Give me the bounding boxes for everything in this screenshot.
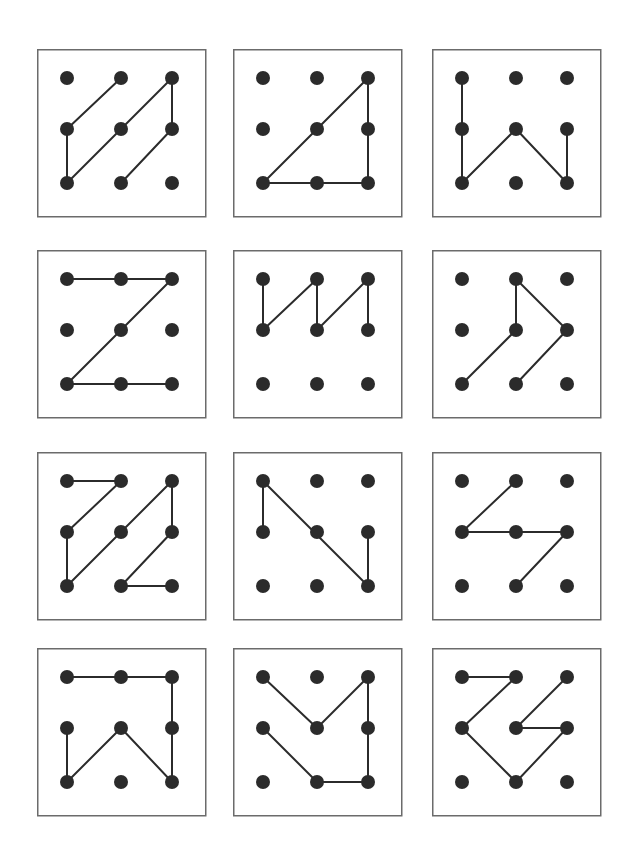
grid-dot[interactable] <box>560 323 574 337</box>
panel-10[interactable] <box>38 649 206 816</box>
grid-dot[interactable] <box>560 71 574 85</box>
grid-dot[interactable] <box>361 122 375 136</box>
grid-dot[interactable] <box>114 377 128 391</box>
grid-dot[interactable] <box>455 579 469 593</box>
grid-dot[interactable] <box>310 525 324 539</box>
grid-dot[interactable] <box>455 474 469 488</box>
grid-dot[interactable] <box>114 775 128 789</box>
grid-dot[interactable] <box>310 670 324 684</box>
grid-dot[interactable] <box>165 474 179 488</box>
grid-dot[interactable] <box>256 670 270 684</box>
grid-dot[interactable] <box>256 272 270 286</box>
panel-2[interactable] <box>234 50 402 217</box>
grid-dot[interactable] <box>455 323 469 337</box>
grid-dot[interactable] <box>361 71 375 85</box>
panel-3[interactable] <box>433 50 601 217</box>
grid-dot[interactable] <box>560 721 574 735</box>
grid-dot[interactable] <box>310 176 324 190</box>
grid-dot[interactable] <box>310 775 324 789</box>
grid-dot[interactable] <box>256 71 270 85</box>
grid-dot[interactable] <box>509 122 523 136</box>
grid-dot[interactable] <box>361 579 375 593</box>
grid-dot[interactable] <box>256 525 270 539</box>
grid-dot[interactable] <box>560 525 574 539</box>
grid-dot[interactable] <box>361 525 375 539</box>
grid-dot[interactable] <box>114 670 128 684</box>
grid-dot[interactable] <box>361 474 375 488</box>
grid-dot[interactable] <box>165 122 179 136</box>
grid-dot[interactable] <box>256 377 270 391</box>
grid-dot[interactable] <box>310 323 324 337</box>
grid-dot[interactable] <box>165 176 179 190</box>
grid-dot[interactable] <box>60 272 74 286</box>
grid-dot[interactable] <box>455 721 469 735</box>
grid-dot[interactable] <box>60 323 74 337</box>
grid-dot[interactable] <box>455 525 469 539</box>
grid-dot[interactable] <box>509 525 523 539</box>
grid-dot[interactable] <box>560 122 574 136</box>
grid-dot[interactable] <box>310 272 324 286</box>
grid-dot[interactable] <box>114 721 128 735</box>
grid-dot[interactable] <box>114 71 128 85</box>
grid-dot[interactable] <box>165 670 179 684</box>
grid-dot[interactable] <box>114 272 128 286</box>
grid-dot[interactable] <box>455 122 469 136</box>
grid-dot[interactable] <box>60 721 74 735</box>
grid-dot[interactable] <box>114 323 128 337</box>
grid-dot[interactable] <box>560 272 574 286</box>
grid-dot[interactable] <box>509 272 523 286</box>
grid-dot[interactable] <box>455 775 469 789</box>
grid-dot[interactable] <box>256 323 270 337</box>
grid-dot[interactable] <box>455 272 469 286</box>
grid-dot[interactable] <box>310 579 324 593</box>
grid-dot[interactable] <box>60 474 74 488</box>
panel-9[interactable] <box>433 453 601 620</box>
grid-dot[interactable] <box>361 670 375 684</box>
grid-dot[interactable] <box>509 176 523 190</box>
grid-dot[interactable] <box>60 71 74 85</box>
grid-dot[interactable] <box>165 377 179 391</box>
grid-dot[interactable] <box>509 721 523 735</box>
grid-dot[interactable] <box>256 474 270 488</box>
panel-12[interactable] <box>433 649 601 816</box>
grid-dot[interactable] <box>165 272 179 286</box>
grid-dot[interactable] <box>455 377 469 391</box>
grid-dot[interactable] <box>114 474 128 488</box>
panel-1[interactable] <box>38 50 206 217</box>
grid-dot[interactable] <box>509 323 523 337</box>
grid-dot[interactable] <box>60 775 74 789</box>
grid-dot[interactable] <box>560 377 574 391</box>
grid-dot[interactable] <box>165 71 179 85</box>
grid-dot[interactable] <box>165 525 179 539</box>
grid-dot[interactable] <box>455 670 469 684</box>
grid-dot[interactable] <box>114 122 128 136</box>
grid-dot[interactable] <box>455 71 469 85</box>
grid-dot[interactable] <box>361 377 375 391</box>
grid-dot[interactable] <box>165 721 179 735</box>
grid-dot[interactable] <box>509 579 523 593</box>
grid-dot[interactable] <box>165 579 179 593</box>
panel-6[interactable] <box>433 251 601 418</box>
grid-dot[interactable] <box>560 474 574 488</box>
grid-dot[interactable] <box>509 775 523 789</box>
grid-dot[interactable] <box>60 122 74 136</box>
grid-dot[interactable] <box>361 323 375 337</box>
grid-dot[interactable] <box>509 377 523 391</box>
grid-dot[interactable] <box>361 775 375 789</box>
grid-dot[interactable] <box>310 474 324 488</box>
grid-dot[interactable] <box>310 122 324 136</box>
grid-dot[interactable] <box>560 670 574 684</box>
grid-dot[interactable] <box>361 176 375 190</box>
grid-dot[interactable] <box>60 176 74 190</box>
grid-dot[interactable] <box>114 579 128 593</box>
grid-dot[interactable] <box>165 775 179 789</box>
panel-7[interactable] <box>38 453 206 620</box>
grid-dot[interactable] <box>310 71 324 85</box>
grid-dot[interactable] <box>560 176 574 190</box>
grid-dot[interactable] <box>310 721 324 735</box>
grid-dot[interactable] <box>114 176 128 190</box>
grid-dot[interactable] <box>560 775 574 789</box>
grid-dot[interactable] <box>256 579 270 593</box>
grid-dot[interactable] <box>560 579 574 593</box>
grid-dot[interactable] <box>256 176 270 190</box>
